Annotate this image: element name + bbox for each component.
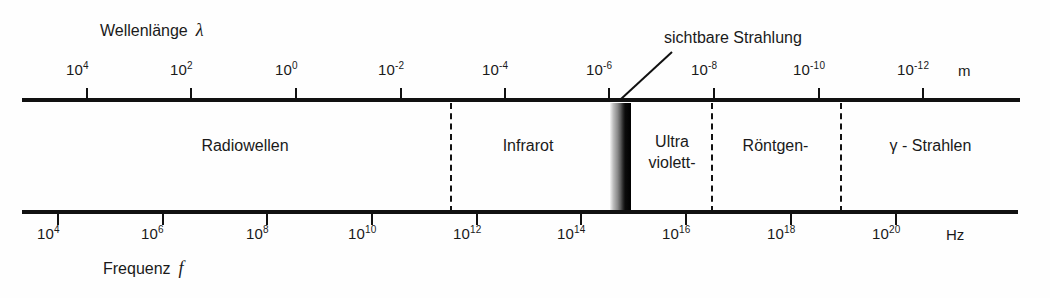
divider-xray-gamma (840, 103, 842, 212)
divider-uv-xray (711, 103, 713, 212)
frequency-tick-label-8: 1020 (872, 225, 901, 242)
frequency-unit-label: Hz (946, 226, 964, 243)
frequency-tick-label-1: 106 (141, 225, 164, 242)
frequency-tick-exp-2: 8 (263, 224, 269, 235)
frequency-axis-title: Frequenzf (103, 258, 184, 279)
wavelength-axis-title-text: Wellenlänge (100, 22, 188, 39)
wavelength-tick-exp-7: -10 (810, 60, 825, 71)
visible-radiation-callout-label: sichtbare Strahlung (664, 29, 802, 47)
band-label-ultraviolett: Ultra violett- (633, 132, 711, 174)
wavelength-tick-exp-1: 2 (187, 60, 193, 71)
wavelength-tick-exp-5: -6 (603, 60, 612, 71)
electromagnetic-spectrum-figure: Wellenlängeλ 104 102 100 10-2 10-4 10-6 … (0, 0, 1050, 298)
wavelength-tick-label-1: 102 (170, 61, 193, 78)
wavelength-axis-title: Wellenlängeλ (100, 20, 204, 41)
frequency-tick-label-3: 1010 (348, 225, 377, 242)
wavelength-unit-label: m (958, 62, 971, 79)
wavelength-tick-label-8: 10-12 (897, 61, 929, 78)
frequency-tick-exp-5: 14 (574, 224, 586, 235)
frequency-tick-exp-7: 18 (784, 224, 796, 235)
wavelength-tick-label-5: 10-6 (586, 61, 612, 78)
visible-radiation-band (610, 103, 631, 212)
wavelength-tick-label-0: 104 (66, 61, 89, 78)
frequency-tick-label-0: 104 (37, 225, 60, 242)
wavelength-tick-exp-3: -2 (395, 60, 404, 71)
wavelength-tick-label-7: 10-10 (793, 61, 825, 78)
wavelength-tick-exp-0: 4 (83, 60, 89, 71)
frequency-tick-label-6: 1016 (662, 225, 691, 242)
frequency-symbol: f (171, 258, 184, 278)
band-label-ultraviolett-line1: Ultra (633, 132, 711, 153)
frequency-tick-exp-6: 16 (679, 224, 691, 235)
frequency-tick-exp-8: 20 (889, 224, 901, 235)
frequency-tick-label-5: 1014 (557, 225, 586, 242)
wavelength-tick-label-6: 10-8 (691, 61, 717, 78)
frequency-tick-exp-1: 6 (158, 224, 164, 235)
wavelength-tick-label-4: 10-4 (482, 61, 508, 78)
band-label-ultraviolett-line2: violett- (633, 153, 711, 174)
wavelength-tick-exp-8: -12 (914, 60, 929, 71)
lambda-symbol: λ (188, 20, 204, 40)
wavelength-tick-exp-6: -8 (708, 60, 717, 71)
callout-leader-line (621, 52, 672, 99)
frequency-tick-label-2: 108 (246, 225, 269, 242)
divider-radio-infrared (450, 103, 452, 212)
band-label-gamma-strahlen: γ - Strahlen (843, 136, 1018, 156)
band-label-radiowellen: Radiowellen (145, 136, 345, 156)
frequency-tick-label-4: 1012 (453, 225, 482, 242)
wavelength-tick-label-2: 100 (275, 61, 298, 78)
frequency-tick-label-7: 1018 (767, 225, 796, 242)
frequency-axis-line (22, 210, 1018, 214)
frequency-tick-exp-3: 10 (365, 224, 377, 235)
frequency-tick-exp-0: 4 (54, 224, 60, 235)
wavelength-tick-exp-2: 0 (292, 60, 298, 71)
wavelength-tick-exp-4: -4 (499, 60, 508, 71)
band-label-roentgen: Röntgen- (711, 136, 840, 156)
frequency-axis-title-text: Frequenz (103, 260, 171, 277)
wavelength-tick-label-3: 10-2 (378, 61, 404, 78)
band-label-infrarot: Infrarot (458, 136, 598, 156)
wavelength-axis-line (22, 98, 1020, 102)
frequency-tick-exp-4: 12 (470, 224, 482, 235)
